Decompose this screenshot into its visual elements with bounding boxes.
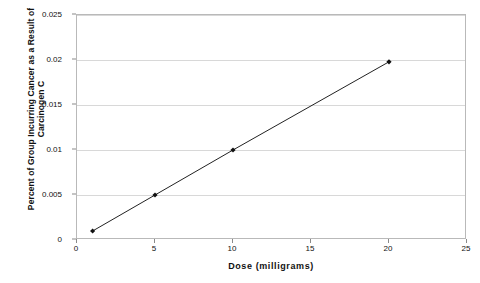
x-axis-title: Dose (milligrams) — [76, 261, 466, 271]
x-tick-mark — [388, 239, 389, 243]
x-tick-mark — [232, 239, 233, 243]
x-axis-ticks: 0510152025 — [0, 0, 480, 283]
x-tick-mark — [154, 239, 155, 243]
chart-figure: Percent of Group Incurring Cancer as a R… — [0, 0, 480, 283]
x-tick-label: 15 — [290, 244, 330, 253]
x-tick-mark — [466, 239, 467, 243]
x-tick-label: 5 — [134, 244, 174, 253]
x-tick-label: 25 — [446, 244, 480, 253]
x-tick-label: 10 — [212, 244, 252, 253]
x-tick-mark — [76, 239, 77, 243]
x-tick-mark — [310, 239, 311, 243]
x-tick-label: 0 — [56, 244, 96, 253]
x-tick-label: 20 — [368, 244, 408, 253]
